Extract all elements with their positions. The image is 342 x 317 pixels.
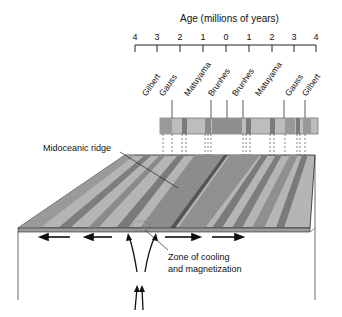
tick-label: 2 [269,32,274,42]
spreading-arrows [40,234,243,240]
zone-label-line1: Zone of cooling [168,252,230,262]
axis-title: Age (millions of years) [180,13,279,24]
tick-label: 3 [291,32,296,42]
tick-label: 1 [200,32,205,42]
tick-label: 3 [154,32,159,42]
ridge-label: Midoceanic ridge [43,143,111,153]
projection-lines [163,134,305,158]
tick-label: 2 [177,32,182,42]
tick-label: 4 [132,32,137,42]
upwelling-arrows [129,236,155,310]
tick-label: 4 [313,32,318,42]
tick-label: 0 [223,32,228,42]
age-axis [135,45,316,52]
epoch-pointers [172,100,305,118]
tick-label: 1 [246,32,251,42]
ocean-floor-block [18,155,315,300]
magnetic-stripe-bar [160,118,318,134]
zone-label-line2: and magnetization [168,264,242,274]
